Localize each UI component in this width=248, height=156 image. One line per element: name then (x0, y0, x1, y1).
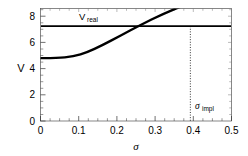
chart-svg: 0 2 4 6 8 0 0.1 0.2 0.3 0.4 0.5 V σ (0, 0, 248, 156)
v-real-label-main: V (79, 11, 86, 22)
x-tick-label-0_5: 0.5 (225, 125, 239, 136)
y-tick-label-8: 8 (29, 11, 35, 22)
x-tick-label-0_4: 0.4 (186, 125, 200, 136)
y-tick-label-2: 2 (29, 89, 35, 100)
x-tick-label-0: 0 (38, 125, 44, 136)
sigma-impl-label-main: σ (195, 101, 200, 111)
sigma-impl-label-sub: impl (202, 105, 214, 113)
chart-figure: 0 2 4 6 8 0 0.1 0.2 0.3 0.4 0.5 V σ (0, 0, 248, 156)
y-tick-label-4: 4 (29, 63, 35, 74)
v-real-label-sub: real (87, 16, 98, 23)
y-tick-label-6: 6 (29, 37, 35, 48)
y-axis-title: V (17, 62, 25, 74)
y-tick-label-0: 0 (29, 116, 35, 127)
x-tick-label-0_1: 0.1 (72, 125, 86, 136)
x-tick-label-0_2: 0.2 (110, 125, 124, 136)
x-axis-title: σ (133, 140, 139, 152)
x-tick-label-0_3: 0.3 (148, 125, 162, 136)
